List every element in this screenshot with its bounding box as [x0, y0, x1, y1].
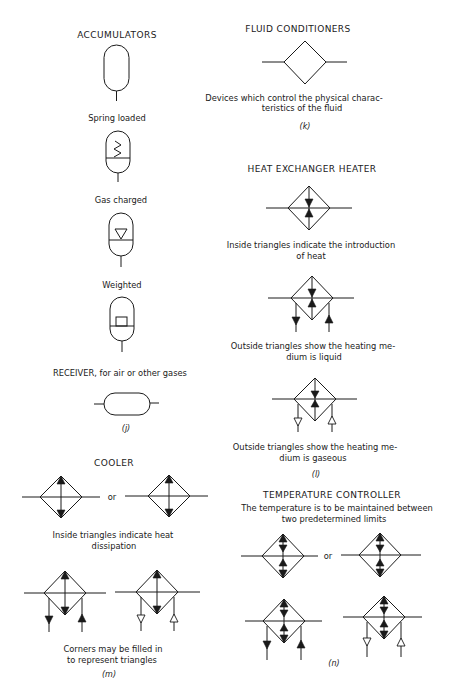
receiver-icon	[94, 393, 159, 415]
cooler-corners-line1: Corners may be filled in	[64, 644, 163, 654]
accumulators-title: ACCUMULATORS	[77, 30, 157, 40]
heater-icon	[266, 186, 352, 230]
heater-gas-medium-icon	[272, 378, 357, 432]
figure-tag-n: (n)	[328, 659, 339, 668]
figure-tag-j: (j)	[122, 424, 130, 433]
temperature-controller-icon-b	[341, 533, 421, 577]
heater-gas-line1: Outside triangles show the heating me-	[233, 442, 397, 452]
heater-inside-line1: Inside triangles indicate the introducti…	[227, 240, 395, 250]
spring-loaded-label: Spring loaded	[88, 113, 146, 123]
heater-liquid-medium-icon	[268, 276, 354, 332]
cooler-title: COOLER	[94, 458, 134, 468]
temperature-controller-liquid-icon	[245, 599, 322, 660]
accumulator-icon	[104, 45, 129, 101]
weighted-label: Weighted	[102, 280, 141, 290]
temperature-controller-icon-a	[241, 534, 318, 578]
fluid-conditioners-desc-line2: teristics of the fluid	[262, 103, 342, 113]
heater-liquid-line1: Outside triangles show the heating me-	[231, 341, 395, 351]
cooler-icon-arrows-outward-alt	[125, 475, 208, 517]
cooler-note-line1: Inside triangles indicate heat	[53, 530, 175, 540]
cooler-corners-line2: to represent triangles	[67, 655, 157, 665]
gas-charged-accumulator-icon	[109, 213, 133, 267]
fluid-conditioners-desc-line1: Devices which control the physical chara…	[205, 93, 382, 103]
cooler-icon-arrows-outward	[22, 476, 100, 518]
receiver-title: RECEIVER, for air or other gases	[53, 368, 187, 378]
spring-loaded-accumulator-icon	[106, 131, 130, 182]
symbol-diagram: ACCUMULATORS Spring loaded Gas charged W…	[0, 0, 449, 690]
temperature-controller-title: TEMPERATURE CONTROLLER	[262, 490, 401, 500]
cooler-or-label: or	[108, 492, 117, 502]
figure-tag-m: (m)	[102, 670, 116, 679]
temperature-controller-desc-line1: The temperature is to be maintained betw…	[240, 503, 433, 513]
cooler-gas-medium-icon	[115, 570, 200, 631]
cooler-note-line2: dissipation	[92, 541, 137, 551]
figure-tag-k: (k)	[300, 122, 311, 131]
heater-gas-line2: dium is gaseous	[279, 453, 346, 463]
heater-inside-line2: of heat	[296, 251, 326, 261]
temperature-controller-or-label: or	[324, 551, 333, 561]
heater-liquid-line2: dium is liquid	[286, 352, 342, 362]
cooler-liquid-medium-icon	[24, 571, 106, 632]
fluid-conditioner-icon	[262, 41, 347, 84]
fluid-conditioners-title: FLUID CONDITIONERS	[245, 24, 350, 34]
heat-exchanger-heater-title: HEAT EXCHANGER HEATER	[248, 164, 377, 174]
temperature-controller-gas-icon	[343, 596, 422, 657]
temperature-controller-desc-line2: two predetermined limits	[282, 514, 387, 524]
figure-tag-l: (l)	[312, 470, 320, 479]
gas-charged-label: Gas charged	[95, 195, 147, 205]
weighted-accumulator-icon	[110, 297, 134, 352]
